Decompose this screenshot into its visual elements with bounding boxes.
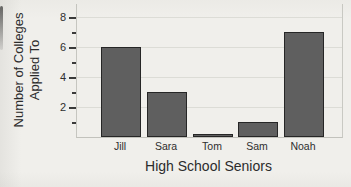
y-major-tick-6 <box>69 47 76 49</box>
y-minor-tick-7 <box>72 32 76 34</box>
bar-jill <box>101 47 141 137</box>
y-tick-label-6: 6 <box>49 42 66 53</box>
bar-tom <box>193 134 233 137</box>
y-major-tick-4 <box>69 77 76 79</box>
y-minor-tick-5 <box>72 62 76 64</box>
gridline-y-8 <box>77 17 342 18</box>
y-minor-tick-1 <box>72 122 76 124</box>
x-axis-title: High School Seniors <box>76 158 341 174</box>
x-tick-label-jill: Jill <box>94 140 146 152</box>
bar-sara <box>147 92 187 137</box>
y-tick-label-8: 8 <box>49 12 66 23</box>
plot-area: 2468 <box>76 4 343 138</box>
figure: Number of Colleges Applied To 2468 High … <box>0 0 351 187</box>
y-minor-tick-3 <box>72 92 76 94</box>
scan-artifact-left <box>0 6 3 50</box>
y-tick-label-2: 2 <box>49 102 66 113</box>
y-tick-label-4: 4 <box>49 72 66 83</box>
y-major-tick-2 <box>69 107 76 109</box>
y-major-tick-8 <box>69 17 76 19</box>
y-axis-title: Number of Colleges Applied To <box>11 0 43 140</box>
y-axis-title-line1: Number of Colleges <box>11 0 27 140</box>
x-tick-label-sam: Sam <box>231 140 283 152</box>
bar-sam <box>238 122 278 137</box>
y-axis-title-line2: Applied To <box>27 0 43 140</box>
bar-noah <box>284 32 324 137</box>
x-tick-label-sara: Sara <box>140 140 192 152</box>
x-tick-label-noah: Noah <box>277 140 329 152</box>
